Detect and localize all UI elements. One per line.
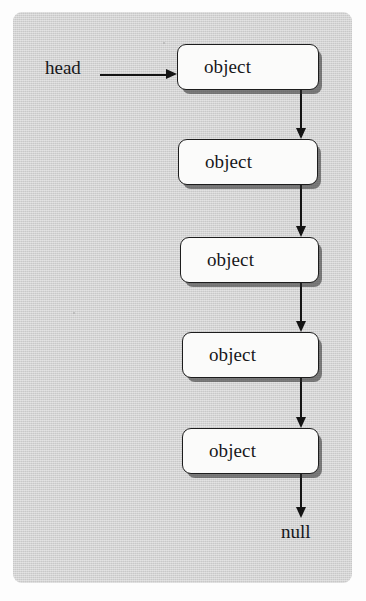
list-node-label: object: [178, 56, 251, 78]
arrow-head-down-icon: [296, 321, 306, 332]
arrow-head-down-icon: [296, 226, 306, 237]
list-node-box[interactable]: object: [182, 428, 319, 474]
arrow-head-down-icon: [296, 417, 306, 428]
head-pointer-label: head: [45, 57, 81, 79]
list-node-box[interactable]: object: [180, 237, 319, 283]
list-node-label: object: [181, 249, 254, 271]
arrow-head-down-icon: [296, 128, 306, 139]
connector-line: [300, 183, 302, 226]
connector-line: [300, 472, 302, 507]
scan-speck: [73, 312, 75, 314]
arrow-head-right-icon: [166, 69, 177, 79]
arrow-head-down-icon: [296, 507, 306, 518]
connector-line: [300, 376, 302, 417]
connector-line: [300, 281, 302, 321]
arrow-shaft: [100, 74, 168, 76]
head-pointer-arrow-icon: [100, 69, 178, 81]
list-node-box[interactable]: object: [178, 139, 318, 185]
scan-speck: [163, 42, 165, 44]
list-node-label: object: [183, 440, 256, 462]
list-node-label: object: [179, 151, 252, 173]
list-node-label: object: [183, 344, 256, 366]
list-node-box[interactable]: object: [182, 332, 319, 378]
list-node-box[interactable]: object: [177, 44, 319, 90]
null-terminator-label: null: [281, 521, 311, 543]
connector-line: [300, 88, 302, 128]
scan-page: head object object object object object: [0, 0, 366, 601]
